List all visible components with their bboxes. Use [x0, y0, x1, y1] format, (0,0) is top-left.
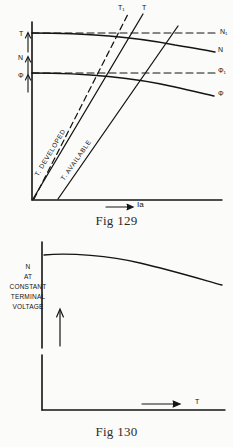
fig130-xlabel-t: T	[195, 398, 199, 405]
fig130-ylabel-line-5: VOLTAGE	[2, 302, 54, 312]
fig130-y-arrow	[57, 309, 64, 346]
fig129-line-t1	[34, 14, 128, 199]
fig129-y-arrow-group	[25, 33, 30, 93]
fig129-plot	[0, 0, 233, 232]
fig130-ylabel-line-3: CONSTANT	[2, 282, 54, 292]
fig130-ylabel-line-1: N	[2, 262, 54, 272]
fig130-ylabel-line-2: AT	[2, 272, 54, 282]
fig129-caption: Fig 129	[0, 213, 233, 229]
fig129-ylabel-phi: Φ	[18, 72, 24, 79]
figure-129: T N Φ T₁ T N₁ N Φ₁ Φ T. DEVELOPED T. AVA…	[0, 0, 233, 232]
fig129-rightlabel-n1: N₁	[220, 28, 227, 35]
fig129-line-t-developed	[33, 14, 143, 199]
fig129-toplabel-t: T	[142, 4, 146, 11]
fig129-line-t-available	[58, 26, 178, 199]
fig129-x-arrow	[106, 204, 133, 209]
fig130-y-axis-caption: N AT CONSTANT TERMINAL VOLTAGE	[2, 262, 54, 312]
fig130-curve-n	[44, 254, 222, 285]
fig130-ylabel-line-4: TERMINAL	[2, 292, 54, 302]
fig129-rightlabel-n: N	[218, 46, 223, 53]
fig129-ylabel-t: T	[19, 30, 23, 37]
fig129-rightlabel-phi: Φ	[218, 90, 224, 97]
fig130-x-arrow	[142, 401, 180, 407]
fig129-curve-n	[32, 33, 215, 52]
fig129-toplabel-t1: T₁	[118, 4, 125, 11]
fig129-rightlabel-phi1: Φ₁	[218, 67, 226, 74]
fig129-xlabel-ia: Ia	[137, 201, 144, 209]
fig129-ylabel-n: N	[18, 54, 23, 61]
scanned-page: T N Φ T₁ T N₁ N Φ₁ Φ T. DEVELOPED T. AVA…	[0, 0, 233, 447]
fig130-caption: Fig 130	[0, 424, 233, 440]
fig129-curve-phi	[32, 73, 214, 96]
